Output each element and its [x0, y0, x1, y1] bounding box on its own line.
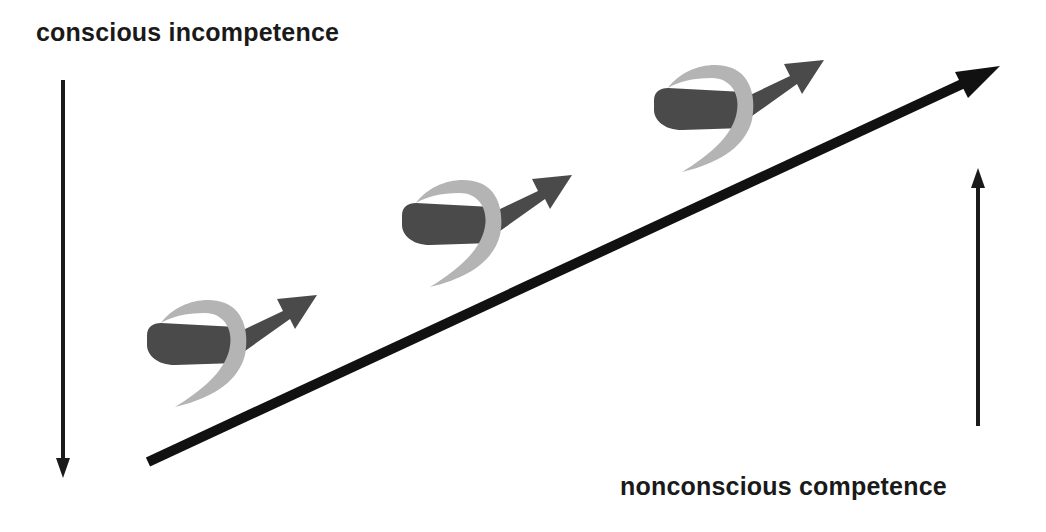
- left-down-arrow: [56, 80, 70, 478]
- label-nonconscious-competence: nonconscious competence: [620, 474, 947, 499]
- label-conscious-incompetence: conscious incompetence: [36, 20, 339, 45]
- main-progress-arrow: [148, 66, 1000, 462]
- right-up-arrow: [971, 168, 985, 426]
- swirl-step-2-icon: [402, 175, 572, 287]
- diagram-canvas: conscious incompetence nonconscious comp…: [0, 0, 1046, 532]
- diagram-graphics: [0, 0, 1046, 532]
